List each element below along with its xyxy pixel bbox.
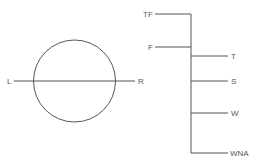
branch-label-w: W [231,109,239,118]
diagram-canvas: L R TF F T S W WNA [0,0,253,163]
label-left: L [7,77,12,86]
branch-label-f: F [148,43,153,52]
label-right: R [138,77,144,86]
circle-figure: L R [7,40,144,122]
branch-label-wna: WNA [230,149,249,158]
tree-figure: TF F T S W WNA [143,10,249,158]
branch-label-s: S [231,77,236,86]
branch-label-t: T [231,52,236,61]
branch-label-tf: TF [143,10,153,19]
